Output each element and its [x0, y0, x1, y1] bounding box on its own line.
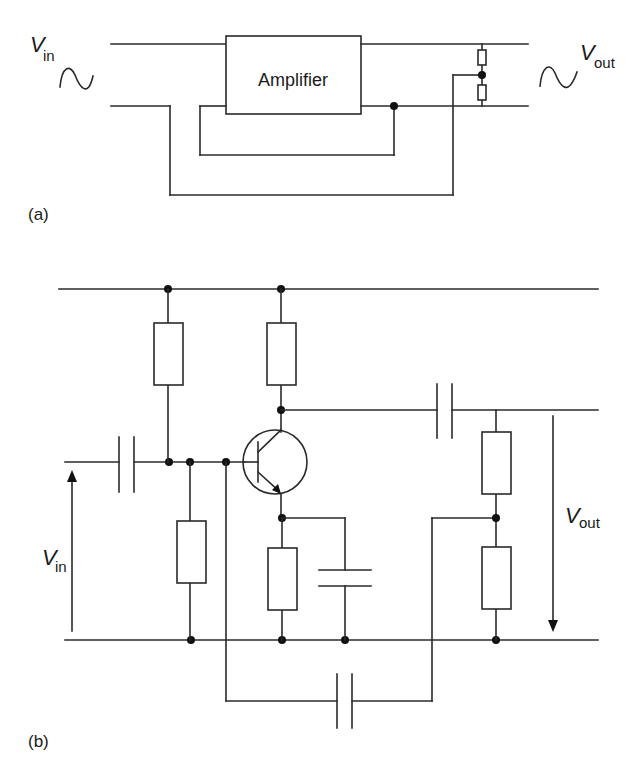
panel-label-b: (b): [28, 732, 49, 751]
figure-a: V in Amplifier V out (a: [28, 32, 616, 224]
arrow-down-icon: [548, 620, 558, 632]
feedback-divider-resistor-top: [482, 432, 511, 494]
bias-resistor-bottom: [177, 521, 206, 583]
resistor-divider-bottom: [478, 85, 486, 100]
vout-sub-b: out: [579, 514, 601, 531]
feedback-divider-resistor-bottom: [482, 547, 511, 609]
figure-b: V in V out (b): [28, 285, 601, 751]
junction-dot: [492, 514, 500, 522]
npn-transistor: [243, 430, 307, 518]
junction-dot: [478, 71, 486, 79]
junction-dot: [187, 636, 195, 644]
bias-resistor-top: [154, 323, 183, 385]
emitter-resistor: [268, 548, 297, 610]
vout-sub-a: out: [594, 54, 616, 71]
amplifier-label: Amplifier: [258, 70, 328, 90]
circuit-figure: V in Amplifier V out (a: [0, 0, 641, 779]
vin-sub-b: in: [55, 558, 67, 575]
junction-dot: [390, 102, 398, 110]
vin-sub-a: in: [43, 47, 55, 64]
collector-resistor: [267, 323, 296, 385]
panel-label-a: (a): [28, 205, 49, 224]
sine-wave-icon: [540, 67, 577, 87]
junction-dot: [165, 458, 173, 466]
arrow-up-icon: [67, 470, 77, 482]
resistor-divider-top: [478, 50, 486, 65]
sine-wave-icon: [60, 68, 93, 89]
